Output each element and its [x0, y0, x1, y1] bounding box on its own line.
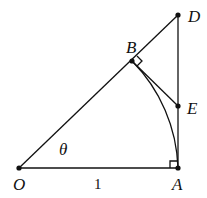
segment-OD: [19, 15, 178, 168]
geometry-diagram: O A B D E θ 1: [0, 0, 207, 198]
point-A: [175, 165, 180, 170]
point-E: [175, 103, 180, 108]
label-A: A: [171, 175, 183, 194]
arc-AB: [132, 61, 178, 168]
point-B: [129, 58, 134, 63]
right-angle-mark-B: [137, 56, 142, 66]
angle-theta-label: θ: [59, 140, 67, 159]
label-O: O: [13, 175, 25, 194]
label-B: B: [126, 38, 137, 57]
label-D: D: [187, 7, 201, 26]
label-E: E: [186, 99, 198, 118]
point-D: [175, 12, 180, 17]
point-O: [16, 165, 21, 170]
side-length-label: 1: [94, 176, 102, 192]
